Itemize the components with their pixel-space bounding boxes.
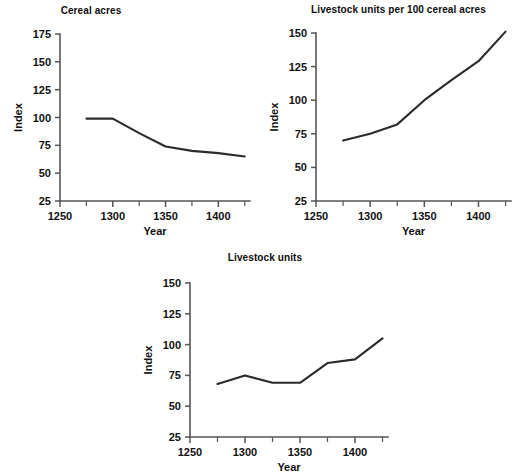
chart-panel-cereal-acres: Cereal acres 255075100125150175125013001… [0,0,258,240]
plot-area-cereal-acres: 2550751001251501751250130013501400YearIn… [0,0,258,240]
x-axis-tick-label: 1250 [304,210,328,222]
x-axis-tick-label: 1300 [101,210,125,222]
y-axis-tick-label: 100 [33,112,51,124]
x-axis-tick-label: 1300 [233,446,257,458]
y-axis-tick-label: 50 [39,167,51,179]
y-axis-tick-label: 150 [289,27,307,39]
y-axis-tick-label: 75 [39,139,51,151]
y-axis-tick-label: 125 [163,308,181,320]
y-axis-tick-label: 25 [295,195,307,207]
y-axis-tick-label: 25 [39,195,51,207]
y-axis-tick-label: 125 [289,61,307,73]
data-series-line [218,338,383,384]
chart-panel-livestock-per-100: Livestock units per 100 cereal acres 255… [258,0,519,240]
y-axis-tick-label: 150 [163,277,181,289]
y-axis-tick-label: 25 [169,431,181,443]
x-axis-tick-label: 1350 [288,446,312,458]
x-axis-tick-label: 1250 [48,210,72,222]
x-axis-tick-label: 1350 [153,210,177,222]
y-axis-title: Index [12,102,24,132]
x-axis-title: Year [143,225,167,237]
plot-area-livestock-units: 2550751001251501250130013501400YearIndex [128,248,398,475]
chart-panel-livestock-units: Livestock units 255075100125150125013001… [128,248,398,475]
x-axis-tick-label: 1400 [466,210,490,222]
data-series-line [343,32,506,141]
plot-area-livestock-per-100: 2550751001251501250130013501400YearIndex [258,0,519,240]
x-axis-tick-label: 1250 [178,446,202,458]
y-axis-tick-label: 175 [33,28,51,40]
y-axis-tick-label: 100 [289,94,307,106]
y-axis-tick-label: 100 [163,339,181,351]
x-axis-tick-label: 1400 [343,446,367,458]
y-axis-tick-label: 75 [295,128,307,140]
y-axis-tick-label: 75 [169,369,181,381]
x-axis-title: Year [277,461,301,473]
x-axis-tick-label: 1350 [412,210,436,222]
y-axis-title: Index [268,102,280,132]
y-axis-tick-label: 150 [33,56,51,68]
data-series-line [86,119,244,157]
y-axis-tick-label: 50 [295,161,307,173]
x-axis-tick-label: 1400 [206,210,230,222]
x-axis-tick-label: 1300 [358,210,382,222]
y-axis-tick-label: 50 [169,400,181,412]
y-axis-title: Index [142,345,154,375]
x-axis-title: Year [402,225,426,237]
y-axis-tick-label: 125 [33,84,51,96]
